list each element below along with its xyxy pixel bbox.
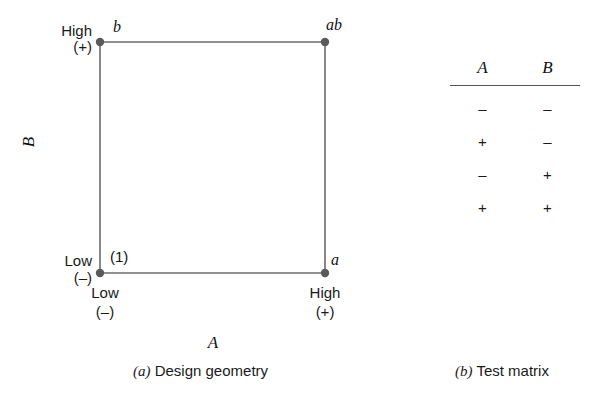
table-row: – –	[450, 86, 580, 126]
test-matrix-head: A B	[450, 58, 580, 86]
caption-b-text: Test matrix	[473, 362, 549, 379]
test-matrix-header-row: A B	[450, 58, 580, 86]
design-point-1	[96, 269, 104, 277]
caption-a-tag: (a)	[133, 363, 151, 379]
caption-b-tag: (b)	[455, 363, 473, 379]
design-point-b	[96, 38, 104, 46]
b-axis-high-label: High	[8, 22, 92, 39]
table-row: – +	[450, 158, 580, 191]
point-label-a: a	[331, 251, 339, 269]
figure-2k-factorial-design: (1) a b ab High (+) Low (–) Low (–) High…	[0, 0, 591, 406]
point-label-ab: ab	[326, 16, 342, 34]
cell-a: –	[450, 86, 515, 126]
column-header-b: B	[515, 58, 580, 86]
table-row: + –	[450, 125, 580, 158]
a-axis-high-sign: (+)	[290, 303, 360, 320]
test-matrix-body: – – + – – + + +	[450, 86, 580, 225]
caption-a-text: Design geometry	[151, 362, 269, 379]
a-axis-low-label: Low	[70, 284, 140, 301]
design-point-a	[321, 269, 329, 277]
cell-a: +	[450, 125, 515, 158]
caption-panel-b: (b) Test matrix	[455, 362, 549, 380]
cell-b: +	[515, 158, 580, 191]
cell-a: –	[450, 158, 515, 191]
column-header-a: A	[450, 58, 515, 86]
point-label-1: (1)	[110, 248, 128, 265]
a-axis-high-label: High	[290, 284, 360, 301]
b-axis-high-sign: (+)	[8, 38, 92, 55]
b-axis-low-label: Low	[8, 252, 92, 269]
test-matrix-table-wrapper: A B – – + – – +	[450, 58, 580, 224]
axis-title-b: B	[19, 125, 39, 159]
caption-panel-a: (a) Design geometry	[133, 362, 268, 380]
a-axis-low-sign: (–)	[70, 303, 140, 320]
cell-b: –	[515, 86, 580, 126]
test-matrix-table: A B – – + – – +	[450, 58, 580, 224]
table-row: + +	[450, 191, 580, 224]
design-point-ab	[321, 38, 329, 46]
cell-b: +	[515, 191, 580, 224]
cell-a: +	[450, 191, 515, 224]
point-label-b: b	[113, 18, 121, 36]
cell-b: –	[515, 125, 580, 158]
axis-title-a: A	[178, 333, 248, 353]
